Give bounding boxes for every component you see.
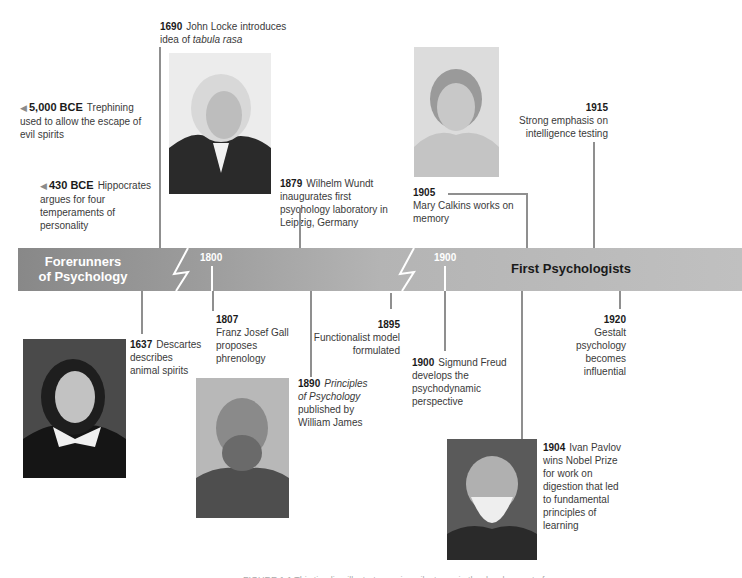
portrait-pavlov [447, 439, 537, 560]
event-year: 1690 [160, 21, 182, 32]
event-year: 430 BCE [49, 179, 94, 191]
event-1905-calkins: 1905 Mary Calkins works on memory [413, 186, 523, 225]
event-year: 1904 [543, 442, 565, 453]
event-1890-james: 1890Principles of Psychology published b… [298, 377, 378, 429]
event-5000bce: ◀5,000 BCETrephining used to allow the e… [20, 101, 155, 141]
event-text-line2: idea of [160, 34, 193, 45]
event-1904-pavlov: 1904Ivan Pavlov wins Nobel Prize for wor… [543, 441, 628, 532]
tick-1800 [211, 266, 213, 291]
event-italic: tabula rasa [193, 34, 242, 45]
portrait-calkins [414, 47, 499, 177]
year-marker-1800: 1800 [200, 252, 222, 263]
event-year: 1920 [604, 314, 626, 325]
event-year: 1900 [412, 357, 434, 368]
event-1915: 1915 Strong emphasis on intelligence tes… [500, 101, 608, 140]
portrait-descartes [23, 339, 126, 478]
event-text: Franz Josef Gall proposes phrenology [216, 327, 289, 364]
event-1879-wundt: 1879Wilhelm Wundt inaugurates first psyc… [280, 177, 395, 229]
event-1900-freud: 1900Sigmund Freud develops the psychodyn… [412, 356, 517, 408]
event-year: 1637 [130, 339, 152, 350]
portrait-james [196, 378, 289, 518]
calkins-image [414, 47, 499, 177]
event-year: 1879 [280, 178, 302, 189]
event-year: 1807 [216, 314, 238, 325]
event-1690-locke: 1690John Locke introduces idea of tabula… [160, 20, 320, 46]
connector-1637 [141, 291, 143, 334]
connector-1905-vertical [526, 193, 528, 248]
time-break-icon [164, 248, 204, 291]
connector-1904 [521, 291, 523, 439]
event-text: Strong emphasis on intelligence testing [519, 115, 608, 139]
year-marker-1900: 1900 [434, 252, 456, 263]
event-year: 5,000 BCE [29, 101, 83, 113]
locke-image [169, 53, 271, 194]
event-year: 1905 [413, 187, 435, 198]
event-430bce: ◀430 BCEHippocrates argues for four temp… [40, 179, 155, 232]
event-year: 1915 [586, 102, 608, 113]
descartes-image [23, 339, 126, 478]
connector-1895 [390, 293, 392, 309]
event-text: Functionalist model formulated [314, 332, 400, 356]
time-break-icon-2 [390, 248, 430, 291]
event-text: Ivan Pavlov wins Nobel Prize for work on… [543, 442, 621, 531]
connector-1807 [212, 291, 214, 311]
event-1920-gestalt: 1920 Gestalt psychology becomes influent… [560, 313, 626, 378]
era-label-first-psychologists: First Psychologists [511, 261, 631, 276]
connector-1690 [159, 47, 161, 248]
era-label-line1: Forerunners [45, 254, 122, 269]
connector-1900 [444, 291, 446, 351]
event-text: Gestalt psychology becomes influential [576, 327, 626, 377]
event-1807-gall: 1807 Franz Josef Gall proposes phrenolog… [216, 313, 306, 365]
event-text: John Locke introduces [186, 21, 286, 32]
connector-1915 [593, 142, 595, 248]
figure-caption: FIGURE 1.1 This timeline illustrates maj… [243, 573, 573, 578]
tick-1900 [444, 266, 446, 291]
connector-1879 [299, 208, 301, 248]
event-year: 1895 [378, 319, 400, 330]
james-image [196, 378, 289, 518]
connector-1905-horizontal [448, 193, 528, 195]
left-arrow-icon: ◀ [40, 181, 47, 191]
event-text: published by William James [298, 404, 362, 428]
event-year: 1890 [298, 378, 320, 389]
portrait-locke [169, 53, 271, 194]
timeline-bar: Forerunners of Psychology 1800 1900 Firs… [18, 248, 742, 291]
event-text: Mary Calkins works on memory [413, 200, 514, 224]
event-1637-descartes: 1637Descartes describes animal spirits [130, 338, 205, 377]
left-arrow-icon: ◀ [20, 103, 27, 113]
event-1895-functionalist: 1895 Functionalist model formulated [310, 318, 400, 357]
connector-1920 [619, 291, 621, 309]
pavlov-image [447, 439, 537, 560]
era-label-forerunners: Forerunners of Psychology [18, 254, 148, 284]
era-label-line2: of Psychology [39, 269, 128, 284]
